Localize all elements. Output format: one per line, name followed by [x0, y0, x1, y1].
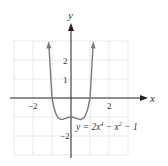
graph: y x −2 2 2 1 −2 y = 2x4 − x2 − 1 — [0, 0, 168, 166]
equation-label: y = 2x4 − x2 − 1 — [75, 121, 138, 132]
x-axis-arrow-icon — [140, 95, 148, 101]
y-tick-1: 1 — [63, 75, 68, 85]
x-axis-label: x — [149, 92, 155, 104]
y-axis-arrow-icon — [68, 23, 74, 31]
curve-left-arrow-icon — [46, 41, 51, 49]
y-axis-label: y — [67, 9, 73, 21]
y-tick-neg2: −2 — [60, 131, 70, 141]
curve-right-arrow-icon — [91, 41, 96, 49]
x-tick-2: 2 — [107, 101, 112, 111]
y-tick-2: 2 — [63, 56, 68, 66]
x-tick-neg2: −2 — [28, 101, 38, 111]
